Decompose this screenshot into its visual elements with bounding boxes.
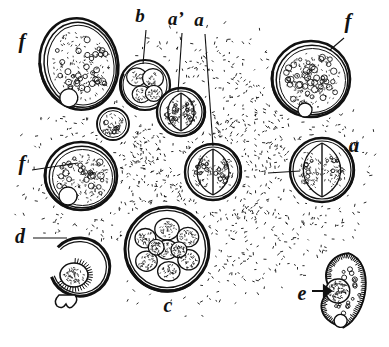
engraving-plate: fba’affadce [0,0,389,347]
structure-f-cell-mid-left [45,142,117,210]
label-a-right: a [349,133,360,157]
structure-a-cell-right [290,138,354,202]
label-a-prime: a’ [168,8,184,29]
structure-small-unlabelled-cell [97,108,129,140]
figure-canvas: fba’affadce [0,0,389,347]
structure-a-cell-centre [185,144,241,200]
structure-c-morula [125,207,209,291]
label-d: d [15,225,26,247]
label-c: c [164,294,173,316]
structure-f-cell-top-right [272,41,350,117]
label-a-top: a [194,9,204,30]
label-b: b [135,5,145,26]
label-e: e [298,282,307,304]
structure-a-prime-cell [157,88,205,136]
